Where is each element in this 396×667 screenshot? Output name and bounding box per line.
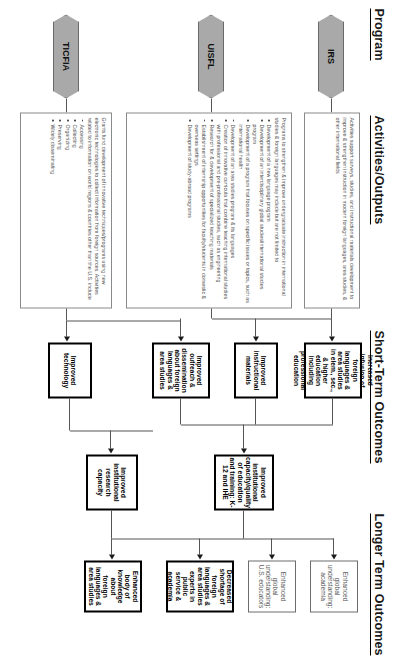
connector-ticfia-out <box>66 308 67 320</box>
list-item: Widely disseminating <box>49 124 56 303</box>
list-item: Development of an area studies program &… <box>230 124 237 303</box>
arrowhead-lt-shortage <box>198 554 204 559</box>
list-item: Research for & development of specialize… <box>208 124 215 303</box>
intermediate-outcome-research-capacity[interactable]: Improved institutional research capacity <box>86 454 138 510</box>
intermediate-outcome-label: Improved institutional capacity/quality … <box>219 454 269 511</box>
connector-rail-ticfia <box>67 320 181 321</box>
connector-rail-to-capacity <box>181 424 333 425</box>
short-term-outcome-materials[interactable]: Improved instructional materials <box>234 342 278 398</box>
short-term-outcome-technology[interactable]: Improved technology <box>48 342 92 398</box>
connector-irs-to-activities <box>331 98 332 112</box>
connector-outreach-out <box>180 398 181 424</box>
connector-uisfl-out <box>211 308 212 318</box>
connector-research-out <box>111 510 112 538</box>
column-header-program: Program <box>370 8 386 60</box>
arrowhead-st-infusion <box>330 336 336 341</box>
activity-intro-ticfia: Grants fund development of innovative te… <box>86 117 107 303</box>
list-item: Preserving <box>56 124 63 303</box>
connector-to-lt-knowledge <box>111 538 112 554</box>
long-term-outcome-label: Enhanced global understanding: U.S. educ… <box>255 561 289 611</box>
long-term-outcome-global-academia[interactable]: Enhanced global understanding: academia <box>310 560 358 612</box>
connector-to-lt-global-educators <box>271 538 272 554</box>
connector-to-st-materials <box>255 318 256 336</box>
short-term-outcome-label: Increased infusion of foreign languages … <box>290 344 375 396</box>
list-item: Development of study-abroad programs <box>186 124 193 303</box>
list-item: Development of an interdisciplinary glob… <box>251 124 265 303</box>
arrowhead-st-outreach <box>179 336 185 341</box>
program-chevron-ticfia[interactable]: TICFIA <box>53 14 79 98</box>
connector-rail-to-research <box>70 430 153 431</box>
connector-to-mid-research <box>110 430 111 448</box>
short-term-outcome-label: Improved outreach & dissemination about … <box>157 344 205 396</box>
program-chevron-uisfl[interactable]: UISFL <box>198 14 224 98</box>
long-term-outcome-shortage[interactable]: Decreased shortage of foreign languages … <box>166 560 234 612</box>
activity-box-irs: Activities support surveys, studies, and… <box>304 112 360 308</box>
intermediate-outcome-label: Improved institutional research capacity <box>95 456 129 508</box>
program-chevron-irs[interactable]: IRS <box>318 14 344 98</box>
connector-to-st-technology <box>66 320 67 336</box>
arrowhead-mid-research <box>109 448 115 453</box>
column-header-long-term: Longer Term Outcomes <box>370 513 386 655</box>
list-item: Establishment of internship opportunitie… <box>194 124 208 303</box>
activity-box-ticfia: Grants fund development of innovative te… <box>20 112 112 308</box>
connector-rail-long-term <box>112 538 334 539</box>
long-term-outcome-label: Decreased shortage of foreign languages … <box>165 562 235 610</box>
activity-bullets-uisfl: Development of a new language program De… <box>186 117 272 303</box>
connector-to-st-infusion <box>331 318 332 336</box>
short-term-outcome-label: Improved technology <box>61 344 80 396</box>
long-term-outcome-global-educators[interactable]: Enhanced global understanding: U.S. educ… <box>248 560 296 612</box>
long-term-outcome-label: Enhanced global understanding: academia <box>317 561 351 611</box>
list-item: Accessing <box>79 124 86 303</box>
connector-uisfl-to-activities <box>211 98 212 112</box>
diagram-rotation-wrapper: Program Activities/Outputs Short-Term Ou… <box>0 0 396 667</box>
connector-irs-out <box>331 308 332 318</box>
arrowhead-st-materials <box>254 336 260 341</box>
list-item: Organizing <box>64 124 71 303</box>
connector-to-lt-shortage <box>199 538 200 554</box>
arrowhead-st-technology <box>65 336 71 341</box>
long-term-outcome-knowledge-body[interactable]: Enhanced body of knowledge about foreign… <box>84 560 142 612</box>
connector-infusion-out <box>332 398 333 424</box>
arrowhead-mid-capacity <box>242 448 248 453</box>
long-term-outcome-label: Enhanced body of knowledge about foreign… <box>85 562 141 610</box>
activity-bullets-ticfia: Accessing Collecting Organizing Preservi… <box>49 117 85 303</box>
connector-rail-upper <box>212 318 332 319</box>
program-label-irs: IRS <box>326 48 336 63</box>
short-term-outcome-label: Improved instructional materials <box>243 344 269 396</box>
program-label-uisfl: UISFL <box>206 43 216 69</box>
activity-intro-uisfl: Programs to strengthen & improve undergr… <box>273 117 287 303</box>
short-term-outcome-outreach[interactable]: Improved outreach & dissemination about … <box>152 342 210 398</box>
connector-to-mid-capacity <box>243 424 244 448</box>
intermediate-outcome-institutional-capacity[interactable]: Improved institutional capacity/quality … <box>214 454 274 510</box>
program-label-ticfia: TICFIA <box>61 42 71 71</box>
connector-capacity-out <box>243 510 244 538</box>
activity-box-uisfl: Programs to strengthen & improve undergr… <box>126 112 292 308</box>
arrowhead-lt-global-educators <box>270 554 276 559</box>
list-item: Development of a program that focuses on… <box>237 124 251 303</box>
list-item: Development of a new language program <box>265 124 272 303</box>
connector-materials-out <box>255 398 256 424</box>
list-item: Creation of innovative curricula that co… <box>215 124 229 303</box>
connector-ticfia-to-activities <box>66 98 67 112</box>
arrowhead-lt-global-academia <box>332 554 338 559</box>
list-item: Collecting <box>71 124 78 303</box>
short-term-outcome-infusion[interactable]: Increased infusion of foreign languages … <box>304 342 362 398</box>
connector-to-lt-global-academia <box>333 538 334 554</box>
logic-model-canvas: Program Activities/Outputs Short-Term Ou… <box>0 0 396 667</box>
arrowhead-lt-knowledge <box>110 554 116 559</box>
activity-intro-irs: Activities support surveys, studies, and… <box>334 117 355 303</box>
connector-technology-out <box>69 398 70 430</box>
column-header-activities: Activities/Outputs <box>370 115 386 224</box>
